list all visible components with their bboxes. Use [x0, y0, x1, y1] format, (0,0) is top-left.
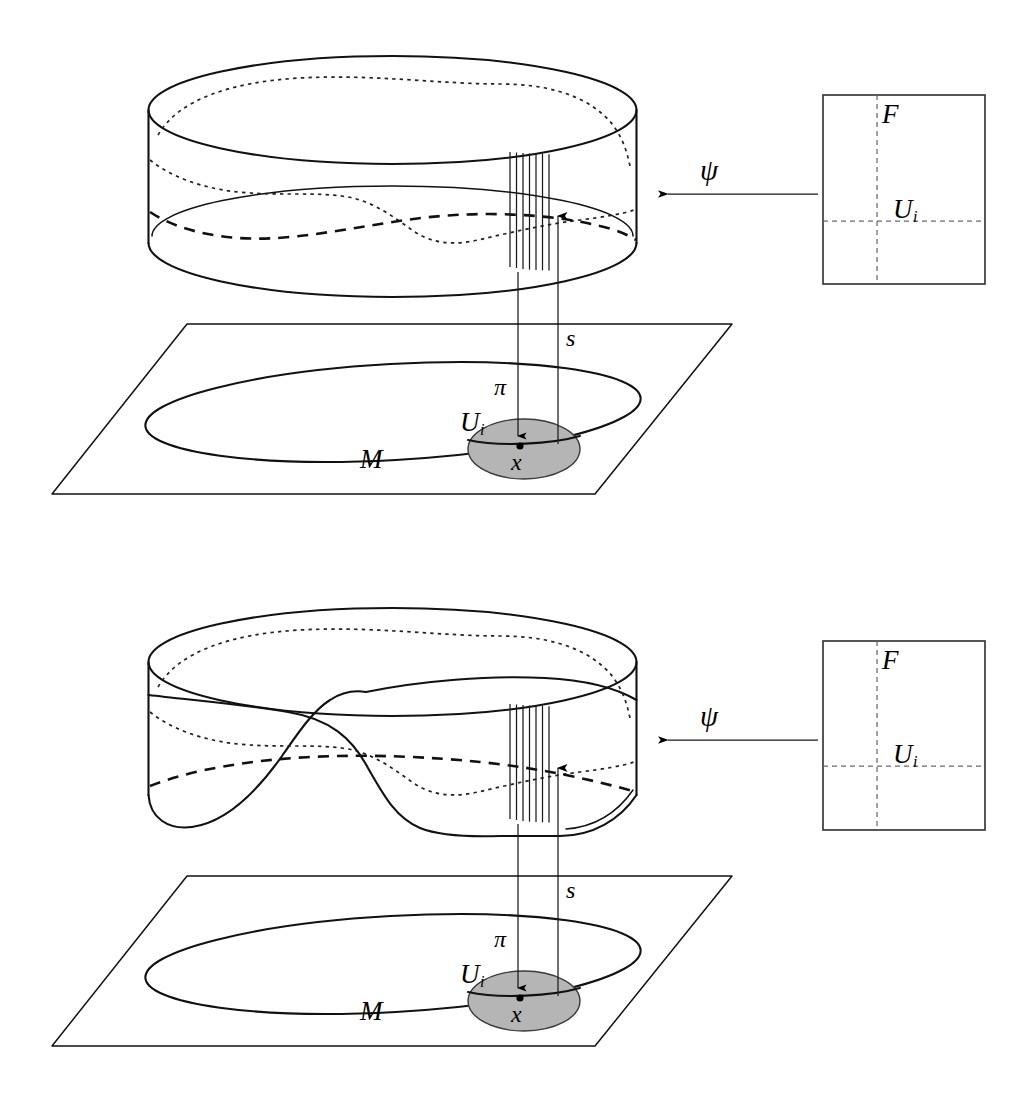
- label-pi-bottom: π: [494, 927, 506, 951]
- label-F-bottom: F: [882, 647, 899, 674]
- base-plane-outline-bottom: [52, 876, 732, 1046]
- label-Ui-chart-bottom-base: U: [893, 739, 913, 769]
- section-dotted-contour-lower: [150, 160, 634, 243]
- patch-ellipse-Ui: [468, 419, 580, 479]
- label-Ui-base-top-sub: i: [480, 421, 485, 438]
- label-x-top: x: [511, 450, 522, 474]
- twist-fold-left-branch: [149, 691, 367, 827]
- cylinder-bottom-inner-arc-twisted: [566, 790, 633, 829]
- total-space-cylinder-bottom: [149, 608, 637, 836]
- label-Ui-chart-top-base: U: [893, 194, 913, 224]
- label-Ui-chart-top-sub: i: [913, 208, 918, 225]
- cylinder-bottom-front-arc: [149, 243, 637, 297]
- patch-ellipse-Ui-bottom: [468, 971, 580, 1031]
- twist-upper-sweep: [366, 677, 637, 700]
- figure-root: ψ F Ui s π Ui x M ψ F Ui s π Ui x M: [0, 0, 1030, 1100]
- bottom-panel-group: [52, 608, 985, 1046]
- base-plane-top: [52, 324, 732, 494]
- label-Ui-base-top-base: U: [460, 407, 480, 437]
- label-psi-bottom: ψ: [700, 702, 718, 731]
- label-pi-top: π: [494, 375, 506, 399]
- chart-rect-bottom: [823, 641, 985, 830]
- label-Ui-chart-bottom-sub: i: [913, 753, 918, 770]
- diagram-canvas: [0, 0, 1030, 1100]
- chart-square-bottom: [823, 641, 985, 830]
- fiber-band-bottom: [510, 704, 549, 823]
- top-panel-group: [52, 56, 985, 494]
- cylinder-top-rim-twisted: [149, 608, 637, 716]
- fiber-band-top: [510, 152, 549, 271]
- cylinder-top-rim: [149, 56, 637, 164]
- section-dotted-contour-lower-twisted: [150, 712, 634, 795]
- base-plane-outline: [52, 324, 732, 494]
- label-F-top: F: [882, 101, 899, 128]
- label-Ui-base-bottom-sub: i: [480, 973, 485, 990]
- label-x-bottom: x: [511, 1002, 522, 1026]
- chart-square-top: [823, 95, 985, 284]
- total-space-cylinder-top: [149, 56, 637, 297]
- label-M-top: M: [360, 446, 383, 473]
- base-plane-bottom: [52, 876, 732, 1046]
- chart-rect: [823, 95, 985, 284]
- section-dotted-contour-upper: [158, 77, 630, 166]
- label-Ui-base-bottom-base: U: [460, 959, 480, 989]
- label-s-bottom: s: [566, 878, 575, 902]
- label-psi-top: ψ: [700, 156, 718, 185]
- label-Ui-chart-top: Ui: [893, 196, 917, 225]
- label-Ui-chart-bottom: Ui: [893, 741, 917, 770]
- label-s-top: s: [566, 326, 575, 350]
- cylinder-bottom-inner-arc: [152, 186, 633, 236]
- label-M-bottom: M: [360, 998, 383, 1025]
- label-Ui-base-bottom: Ui: [460, 961, 484, 990]
- label-Ui-base-top: Ui: [460, 409, 484, 438]
